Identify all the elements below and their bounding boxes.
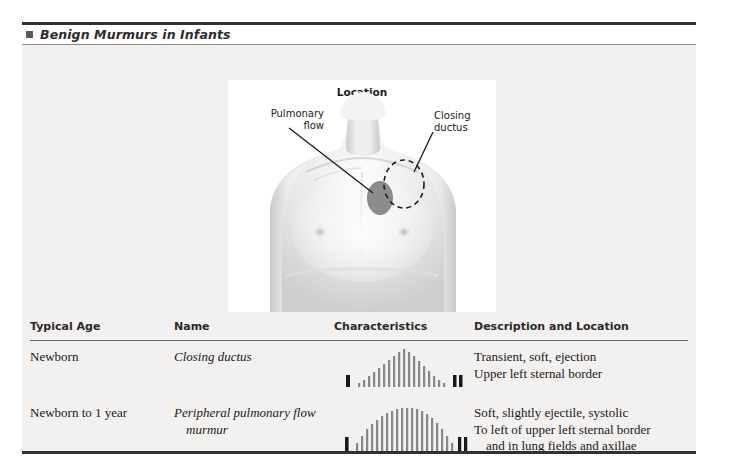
cell-name-line1: Peripheral pulmonary flow [174,405,316,420]
left-nipple [313,226,327,238]
cell-description-line2: To left of upper left sternal border [474,422,651,437]
bottom-rule [22,451,696,454]
page-title: Benign Murmurs in Infants [40,27,231,42]
murmur-diagram-peripheral-pulmonary-flow [336,405,476,455]
cell-description-line1: Soft, slightly ejectile, systolic [474,405,628,420]
murmur-diagram-closing-ductus [336,347,476,391]
location-figure: Location [228,80,496,312]
cell-name-line1: Closing ductus [174,349,252,364]
column-header-characteristics: Characteristics [334,320,427,333]
cell-typical-age: Newborn [30,349,180,366]
cell-name-line2: murmur [174,422,334,439]
title-bar: Benign Murmurs in Infants [22,25,696,44]
cell-typical-age: Newborn to 1 year [30,405,180,422]
content-panel: Location [22,45,696,451]
chin-shape [340,92,386,121]
closing-ductus-label: Closing ductus [434,110,496,134]
table-row: Newborn Closing ductus Transient, soft, … [30,341,688,397]
cell-description: Soft, slightly ejectile, systolic To lef… [474,405,694,455]
cell-description: Transient, soft, ejection Upper left ste… [474,349,694,382]
cell-description-line1: Transient, soft, ejection [474,349,596,364]
column-header-description-and-location: Description and Location [474,320,629,333]
cell-name: Closing ductus [174,349,334,366]
right-nipple [397,226,411,238]
page-root: Benign Murmurs in Infants Location [0,0,732,467]
chest-highlight [292,178,432,282]
cell-description-line2: Upper left sternal border [474,366,602,381]
cell-name: Peripheral pulmonary flow murmur [174,405,334,438]
pulmonary-flow-marker [367,181,393,215]
column-header-typical-age: Typical Age [30,320,100,333]
table-header-row: Typical Age Name Characteristics Descrip… [30,317,688,341]
murmurs-table: Typical Age Name Characteristics Descrip… [30,317,688,463]
content-box: Benign Murmurs in Infants Location [22,22,696,454]
pulmonary-flow-label: Pulmonary flow [242,108,324,132]
square-bullet-icon [26,31,33,38]
column-header-name: Name [174,320,210,333]
